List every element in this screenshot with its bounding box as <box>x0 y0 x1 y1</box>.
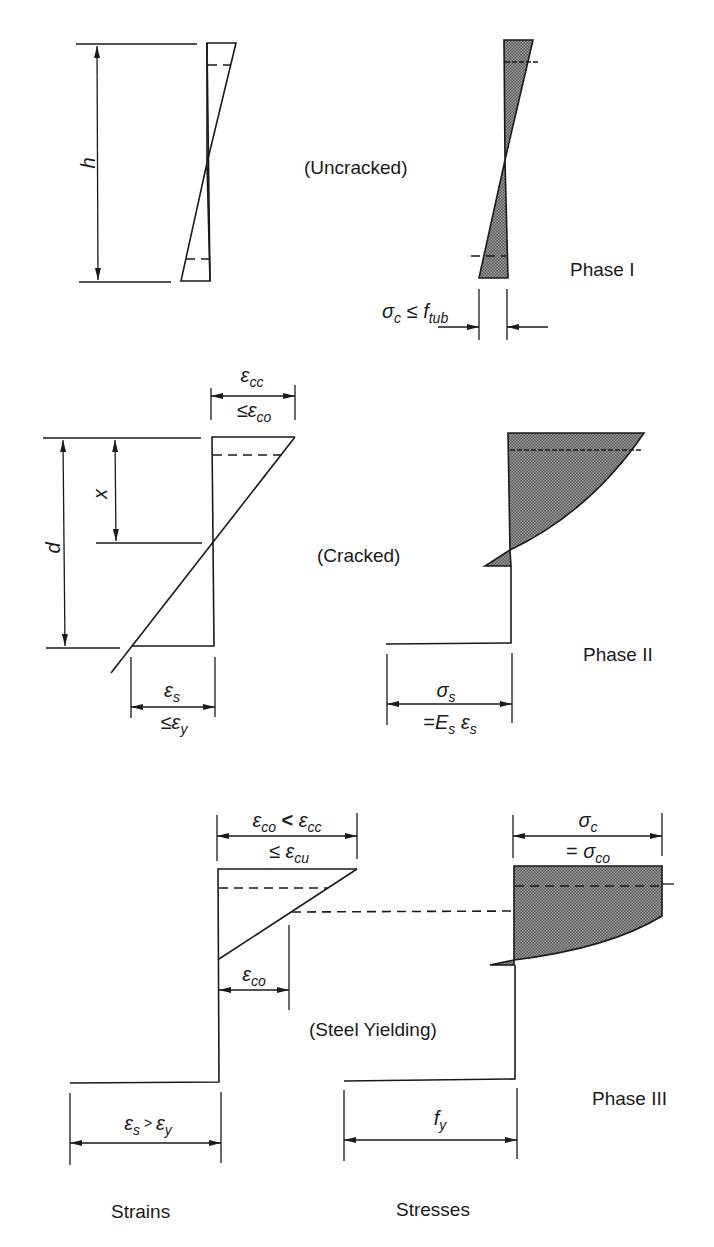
phase-1-stress-diagram: σc ≤ ftub <box>382 40 548 340</box>
phase-2-top-strain-label-1: εcc <box>241 364 264 390</box>
phase-3-top-strain-label-2: ≤ εcu <box>269 840 309 866</box>
phase-2-label: Phase II <box>583 644 653 665</box>
phase-3-steel-strain-label: εs > εy <box>124 1112 173 1138</box>
depth-label: d <box>42 542 64 554</box>
phase-2-top-strain-dimension: εcc ≤εco <box>211 364 295 425</box>
moment-curvature-phases-diagram: h (Uncracked) σc ≤ ftub Phase I <box>0 0 714 1247</box>
phase-1-stress-limit-label: σc ≤ ftub <box>382 300 448 326</box>
phase-3-top-strain-label-1: εco < εcc <box>252 809 321 835</box>
phase-2-bottom-strain-label-1: εs <box>164 679 180 705</box>
phase-3-group: εco < εcc ≤ εcu εco εs > εy <box>70 809 674 1165</box>
phase-3-label: Phase III <box>592 1088 667 1109</box>
phase-2-state-label: (Cracked) <box>317 545 400 566</box>
phase-1-strain-diagram <box>181 43 236 281</box>
phase-1-label: Phase I <box>570 259 634 280</box>
phase-2-depth-dimensions: d x <box>42 438 202 648</box>
phase-2-bottom-strain-label-2: ≤εy <box>161 711 189 737</box>
phase-3-state-label: (Steel Yielding) <box>309 1019 437 1040</box>
phase-3-top-stress-dimension: σc = σco <box>513 809 662 866</box>
phase-2-top-strain-label-2: ≤εco <box>237 399 272 425</box>
phase-3-concrete-stress-label-1: σc <box>578 809 597 835</box>
phase-2-steel-stress-label-1: σs <box>436 679 455 705</box>
phase-3-top-strain-dimension: εco < εcc ≤ εcu <box>217 809 357 866</box>
phase-2-stress-diagram: σs =Es εs <box>386 433 644 737</box>
phase-1-state-label: (Uncracked) <box>304 157 407 178</box>
phase-2-group: εcc ≤εco d x εs <box>42 364 653 737</box>
phase-2-steel-stress-label-2: =Es εs <box>423 711 476 737</box>
phase-3-strain-diagram: εco <box>70 869 517 1083</box>
strains-column-label: Strains <box>111 1201 170 1222</box>
phase-2-bottom-strain-dimension: εs ≤εy <box>131 657 215 737</box>
phase-1-group: h (Uncracked) σc ≤ ftub Phase I <box>76 40 634 340</box>
phase-3-concrete-stress-label-2: = σco <box>566 840 610 866</box>
height-label: h <box>77 157 99 168</box>
phase-3-bottom-strain-dimension: εs > εy <box>70 1092 221 1165</box>
phase-3-mid-strain-label: εco <box>242 963 266 989</box>
neutral-axis-label: x <box>89 488 111 500</box>
stresses-column-label: Stresses <box>396 1199 470 1220</box>
phase-2-strain-diagram <box>111 437 295 673</box>
phase-3-yield-stress-label: fy <box>434 1107 448 1133</box>
height-dimension: h <box>76 44 197 282</box>
